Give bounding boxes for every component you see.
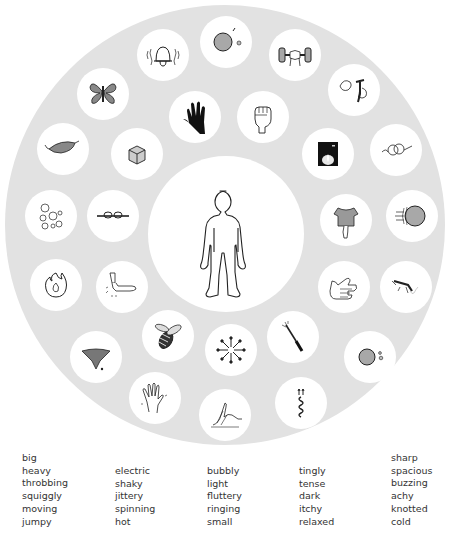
sensation-word: dark	[299, 490, 334, 503]
sensation-circle-scratch	[199, 389, 251, 441]
sensation-word: buzzing	[391, 477, 432, 490]
word-column-5: sharpspaciousbuzzingachyknottedcold	[391, 452, 432, 528]
sensation-word: spacious	[391, 465, 432, 478]
circle-background	[199, 389, 251, 441]
sensation-circle-moving-ball	[386, 190, 438, 242]
sensation-word: fluttery	[207, 490, 242, 503]
sensation-circle-knot	[87, 190, 139, 242]
sensation-word: jumpy	[22, 516, 68, 529]
sensation-circle-hands-twist	[328, 64, 380, 116]
sensation-circle-bee	[142, 310, 194, 362]
sensation-word: sharp	[391, 452, 432, 465]
word-column-4: tinglytensedarkitchyrelaxed	[299, 465, 334, 529]
circle-background	[129, 372, 181, 424]
sensation-circle-yarn	[370, 124, 422, 176]
sensation-circle-arm	[96, 261, 148, 313]
sensation-circle-mosquito	[380, 261, 432, 313]
sensation-word: electric	[115, 465, 155, 478]
candle-in-dark-icon	[318, 142, 338, 166]
sensation-word: big	[22, 452, 68, 465]
cube-dice-icon	[129, 146, 145, 164]
sensation-circle-feather	[37, 123, 89, 175]
sensation-circle-shirt	[320, 194, 372, 246]
sensation-word: heavy	[22, 465, 68, 478]
sensation-word: cold	[391, 516, 432, 529]
sensation-circle-knife	[267, 311, 319, 363]
sensation-word: relaxed	[299, 516, 334, 529]
sensation-circle-big-ball	[200, 16, 252, 68]
sensation-circle-bubbles	[25, 190, 77, 242]
word-column-1: bigheavythrobbingsquigglymovingjumpy	[22, 452, 68, 528]
sensation-word: hot	[115, 516, 155, 529]
sensation-circle-small-ball	[344, 331, 396, 383]
sensation-word: bubbly	[207, 465, 242, 478]
sensation-word: light	[207, 478, 242, 491]
word-column-3: bubblylightflutteryringingsmall	[207, 465, 242, 529]
sensation-word: moving	[22, 503, 68, 516]
sensation-word: small	[207, 516, 242, 529]
circle-background	[370, 124, 422, 176]
sensation-circle-fire	[30, 259, 82, 311]
sensation-circle-tingly-hand	[129, 372, 181, 424]
sensation-word: ringing	[207, 503, 242, 516]
sensation-circle-dice	[111, 128, 163, 180]
sensation-word: itchy	[299, 503, 334, 516]
circle-background	[275, 377, 327, 429]
circle-background	[25, 190, 77, 242]
sensation-wheel	[0, 0, 450, 450]
sensation-circle-dumbbell	[269, 29, 321, 81]
sensation-circle-bell	[137, 29, 189, 81]
sensation-word: knotted	[391, 503, 432, 516]
sensation-circle-hands-clasp	[318, 261, 370, 313]
sensation-circle-butterfly	[77, 68, 129, 120]
center-circle	[148, 156, 304, 312]
circle-background	[205, 324, 257, 376]
sensation-circle-spring	[275, 377, 327, 429]
sensation-circle-arrows	[205, 324, 257, 376]
sensation-circle-candle	[302, 128, 354, 180]
circle-background	[328, 64, 380, 116]
sensation-circle-fist	[237, 91, 289, 143]
sensation-circle-tornado	[70, 331, 122, 383]
sensation-word: jittery	[115, 490, 155, 503]
sensation-word: tense	[299, 478, 334, 491]
sensation-word: shaky	[115, 478, 155, 491]
sensation-word: throbbing	[22, 477, 68, 490]
sensation-word: achy	[391, 490, 432, 503]
sensation-word: squiggly	[22, 490, 68, 503]
sensation-word: spinning	[115, 503, 155, 516]
word-column-2: electricshakyjitteryspinninghot	[115, 465, 155, 529]
sensation-circle-dark-hand	[169, 91, 221, 143]
sensation-word: tingly	[299, 465, 334, 478]
